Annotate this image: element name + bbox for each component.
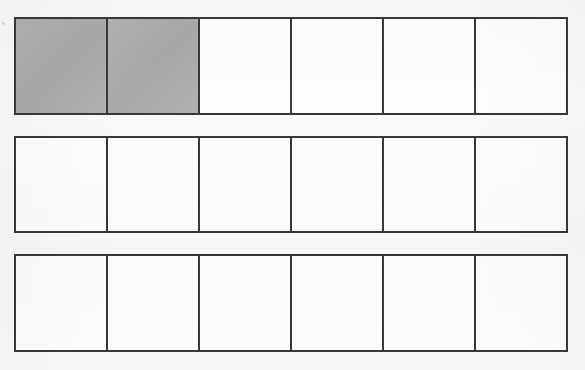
fraction-cell[interactable]	[476, 138, 566, 231]
fraction-cell[interactable]	[384, 256, 476, 350]
fraction-bar-2	[14, 136, 568, 233]
fraction-cell[interactable]	[292, 256, 384, 350]
scan-artifact-speck	[2, 22, 5, 25]
fraction-cell[interactable]	[108, 256, 200, 350]
fraction-bars-worksheet	[0, 0, 585, 370]
fraction-cell[interactable]	[16, 138, 108, 231]
fraction-bar-1	[14, 17, 568, 115]
fraction-cell[interactable]	[476, 19, 566, 113]
fraction-cell[interactable]	[476, 256, 566, 350]
fraction-bar-3	[14, 254, 568, 352]
fraction-cell[interactable]	[16, 256, 108, 350]
fraction-cell[interactable]	[384, 19, 476, 113]
fraction-cell[interactable]	[200, 256, 292, 350]
fraction-cell[interactable]	[292, 138, 384, 231]
fraction-cell[interactable]	[16, 19, 108, 113]
fraction-cell[interactable]	[200, 19, 292, 113]
fraction-cell[interactable]	[108, 19, 200, 113]
fraction-cell[interactable]	[200, 138, 292, 231]
fraction-cell[interactable]	[108, 138, 200, 231]
fraction-cell[interactable]	[292, 19, 384, 113]
fraction-cell[interactable]	[384, 138, 476, 231]
